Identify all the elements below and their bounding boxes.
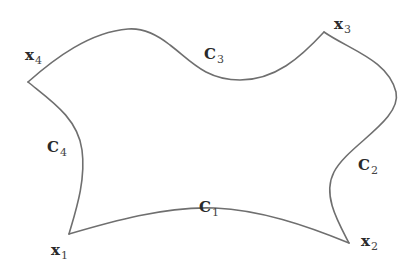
curve-label-c2: C2: [358, 158, 378, 173]
curve-label-c3: C3: [204, 47, 224, 62]
curve-c3: [28, 29, 324, 82]
point-label-x1-main: x: [51, 241, 60, 259]
point-label-x4: x4: [25, 48, 42, 63]
curved-quadrilateral-region: [0, 0, 412, 273]
curve-label-c2-sub: 2: [371, 164, 378, 177]
point-label-x3-main: x: [334, 15, 343, 33]
curve-c2: [324, 32, 396, 243]
curve-label-c2-main: C: [358, 156, 370, 174]
curve-label-c1-sub: 1: [212, 206, 219, 219]
curve-label-c4-sub: 4: [60, 146, 67, 159]
point-label-x1: x1: [51, 243, 68, 258]
point-label-x2-sub: 2: [371, 240, 378, 253]
curve-label-c1: C1: [199, 200, 219, 215]
point-label-x1-sub: 1: [61, 249, 68, 262]
point-label-x2-main: x: [361, 232, 370, 250]
curve-label-c3-main: C: [204, 45, 216, 63]
point-label-x3-sub: 3: [344, 23, 351, 36]
curve-c4: [28, 82, 83, 234]
curve-label-c4: C4: [47, 140, 67, 155]
point-label-x4-sub: 4: [35, 54, 42, 67]
point-label-x2: x2: [361, 234, 378, 249]
curve-label-c4-main: C: [47, 138, 59, 156]
point-label-x3: x3: [334, 17, 351, 32]
curve-label-c1-main: C: [199, 198, 211, 216]
diagram-canvas: x4 x3 x1 x2 C3 C4 C2 C1: [0, 0, 412, 273]
curve-label-c3-sub: 3: [217, 53, 224, 66]
point-label-x4-main: x: [25, 46, 34, 64]
